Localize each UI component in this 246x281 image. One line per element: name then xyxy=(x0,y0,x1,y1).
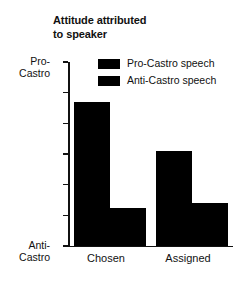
legend-label-anti-castro: Anti-Castro speech xyxy=(127,75,216,86)
bar-chosen-pro-castro-speech xyxy=(74,102,110,246)
bar-chosen-anti-castro-speech xyxy=(110,208,146,246)
x-axis-category-chosen: Chosen xyxy=(61,252,151,264)
legend-label-pro-castro: Pro-Castro speech xyxy=(127,58,215,69)
y-axis-pole-label-low: Anti- Castro xyxy=(4,240,50,263)
y-axis-tick xyxy=(63,92,68,93)
legend-item-pro-castro: Pro-Castro speech xyxy=(98,56,216,71)
chart-legend: Pro-Castro speech Anti-Castro speech xyxy=(98,56,216,90)
bar-assigned-anti-castro-speech xyxy=(192,203,228,246)
y-axis-tick xyxy=(63,61,68,62)
y-axis-tick xyxy=(63,123,68,124)
y-axis-pole-label-high: Pro- Castro xyxy=(4,56,50,79)
y-axis-tick xyxy=(63,153,68,154)
legend-swatch-icon xyxy=(98,59,120,69)
legend-swatch-icon xyxy=(98,76,120,86)
y-axis-tick xyxy=(63,245,68,246)
chart-title: Attitude attributed to speaker xyxy=(53,14,233,41)
x-axis-category-assigned: Assigned xyxy=(143,252,233,264)
y-axis-tick xyxy=(63,184,68,185)
legend-item-anti-castro: Anti-Castro speech xyxy=(98,73,216,88)
bar-assigned-pro-castro-speech xyxy=(156,151,192,246)
chart-figure: Attitude attributed to speaker Pro- Cast… xyxy=(0,0,246,281)
y-axis-tick xyxy=(63,215,68,216)
